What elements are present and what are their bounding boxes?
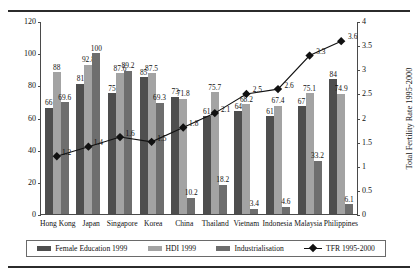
bar-group: 6175.718.2	[199, 22, 231, 214]
legend-line-marker-icon	[304, 245, 322, 252]
bar-value-label: 3.4	[250, 200, 259, 207]
x-axis-category-label: Hong Kong	[40, 216, 76, 232]
bar-value-label: 74.9	[335, 85, 348, 92]
x-axis-category-label: Korea	[138, 216, 169, 232]
legend-item-female-education: Female Education 1999	[37, 244, 127, 253]
bar: 69.6	[61, 102, 69, 214]
bar-value-label: 100	[91, 45, 102, 52]
bar: 73	[171, 97, 179, 214]
y-axis-right-tick: 1	[357, 163, 366, 171]
bar-group: 8192.8100	[73, 22, 105, 214]
legend-label: HDI 1999	[166, 244, 197, 253]
bar: 33.2	[314, 161, 322, 214]
x-axis-category-label: Malaysia	[293, 216, 324, 232]
bar-value-label: 6.1	[345, 196, 354, 203]
bar: 61	[203, 116, 211, 214]
bar-value-label: 75.7	[208, 84, 221, 91]
bar: 18.2	[219, 185, 227, 214]
legend-label: TFR 1995-2000	[326, 244, 375, 253]
x-axis-category-label: Singapore	[107, 216, 138, 232]
y-axis-left-tick: 120	[24, 18, 41, 26]
legend-item-hdi: HDI 1999	[148, 244, 197, 253]
legend-item-tfr: TFR 1995-2000	[304, 244, 375, 253]
bar-value-label: 18.2	[216, 176, 229, 183]
x-axis-category-label: Thailand	[200, 216, 231, 232]
y-axis-right-title-text: Total Fertility Rate 1995-2000	[405, 68, 414, 170]
bar-value-label: 88	[53, 64, 60, 71]
bar-value-label: 81	[77, 75, 84, 82]
bar: 3.4	[250, 209, 258, 214]
bar-group: 8587.569.3	[136, 22, 168, 214]
y-axis-right-tick: 0	[357, 211, 366, 219]
y-axis-left-tick: 40	[28, 147, 41, 155]
x-axis-category-label: Japan	[76, 216, 107, 232]
bar-group: 6468.23.4	[231, 22, 263, 214]
plot-area: 668869.68192.81007587.689.28587.569.3737…	[40, 22, 358, 215]
bar: 67	[298, 106, 306, 214]
bar: 10.2	[187, 198, 195, 214]
bar-value-label: 68.2	[240, 96, 253, 103]
bar: 69.3	[156, 103, 164, 214]
y-axis-left-tick: 20	[28, 179, 41, 187]
bar-group: 6167.44.6	[262, 22, 294, 214]
tfr-value-label: 2.6	[285, 82, 294, 89]
bar-value-label: 4.6	[281, 198, 290, 205]
tfr-value-label: 2.5	[253, 87, 262, 94]
y-axis-right-title: Total Fertility Rate 1995-2000	[402, 22, 416, 215]
legend-swatch-icon	[37, 246, 51, 251]
bar: 6.1	[345, 204, 353, 214]
x-axis-category-label: Indonesia	[262, 216, 293, 232]
y-axis-left-tick: 60	[28, 115, 41, 123]
bar-value-label: 10.2	[185, 189, 198, 196]
bar: 75	[108, 93, 116, 214]
bar: 87.6	[116, 73, 124, 214]
bar-value-label: 87.5	[145, 65, 158, 72]
tfr-value-label: 1.5	[157, 135, 166, 142]
bar-group: 7371.810.2	[167, 22, 199, 214]
bar-value-label: 69.6	[58, 94, 71, 101]
bar: 84	[329, 79, 337, 214]
bar: 61	[266, 116, 274, 214]
y-axis-left-tick: 100	[24, 50, 41, 58]
y-axis-right-tick: 2	[357, 115, 366, 123]
tfr-value-label: 1.2	[62, 149, 71, 156]
bar-groups: 668869.68192.81007587.689.28587.569.3737…	[41, 22, 357, 214]
tfr-value-label: 1.4	[94, 140, 103, 147]
tfr-value-label: 3.3	[316, 48, 325, 55]
x-axis-category-label: Philippines	[324, 216, 358, 232]
top-divider	[8, 10, 410, 12]
bar-value-label: 71.8	[177, 90, 190, 97]
bottom-divider	[8, 266, 410, 268]
y-axis-right-tick: 1.5	[357, 139, 372, 147]
bar-group: 668869.6	[41, 22, 73, 214]
tfr-value-label: 1.8	[189, 120, 198, 127]
bar-value-label: 33.2	[311, 152, 324, 159]
bar: 4.6	[282, 207, 290, 214]
bar-value-label: 75.1	[303, 85, 316, 92]
bar: 92.8	[84, 65, 92, 214]
bar-value-label: 67	[298, 98, 305, 105]
x-axis-category-label: Vietnam	[231, 216, 262, 232]
bar-group: 8474.96.1	[325, 22, 357, 214]
bar: 66	[45, 108, 53, 214]
bar-value-label: 75	[108, 85, 115, 92]
legend-item-industrialisation: Industrialisation	[216, 244, 283, 253]
y-axis-right-tick: 4	[357, 18, 366, 26]
bar: 68.2	[242, 104, 250, 214]
bar-value-label: 61	[266, 108, 273, 115]
bar: 81	[76, 84, 84, 214]
bar: 100	[92, 53, 100, 214]
legend-label: Industrialisation	[234, 244, 283, 253]
legend-label: Female Education 1999	[55, 244, 127, 253]
x-axis-labels: Hong KongJapanSingaporeKoreaChinaThailan…	[40, 216, 358, 232]
bar: 85	[140, 77, 148, 214]
bar-value-label: 84	[329, 71, 336, 78]
bar-value-label: 61	[203, 108, 210, 115]
y-axis-right-tick: 0.5	[357, 187, 372, 195]
y-axis-right-tick: 2.5	[357, 90, 372, 98]
bar-value-label: 89.2	[122, 62, 135, 69]
bar-value-label: 69.3	[153, 94, 166, 101]
bar: 89.2	[124, 71, 132, 214]
y-axis-right-tick: 3.5	[357, 42, 372, 50]
bar-value-label: 67.4	[271, 97, 284, 104]
